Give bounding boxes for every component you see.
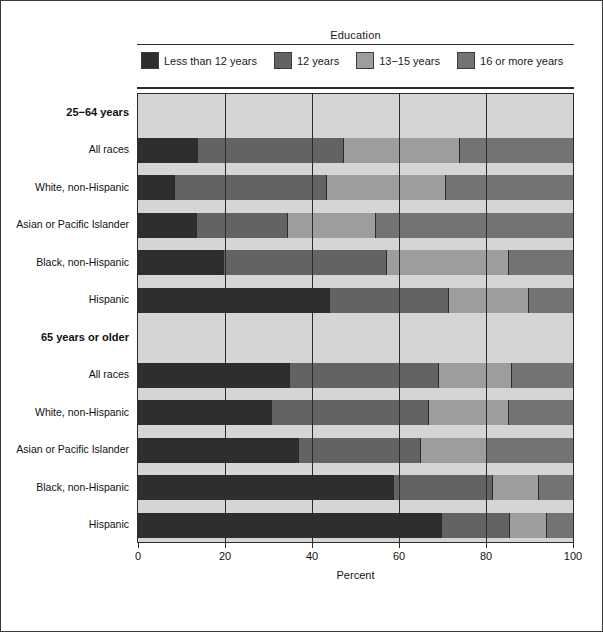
x-axis-tick <box>573 543 574 548</box>
plot-area <box>137 93 574 543</box>
bar-segment[interactable] <box>529 288 573 313</box>
bar-segment[interactable] <box>512 363 573 388</box>
legend-label: 16 or more years <box>480 55 563 67</box>
category-label: Black, non-Hispanic <box>36 481 129 493</box>
bar-segment[interactable] <box>138 288 330 313</box>
bar-segment[interactable] <box>460 138 573 163</box>
legend-items: Less than 12 years12 years13−15 years16 … <box>137 52 574 69</box>
bar-segment[interactable] <box>138 175 175 200</box>
legend-label: Less than 12 years <box>164 55 257 67</box>
bar-segment[interactable] <box>138 475 394 500</box>
stacked-bar[interactable] <box>138 213 573 238</box>
bar-segment[interactable] <box>446 175 573 200</box>
bar-segment[interactable] <box>175 175 327 200</box>
stacked-bar[interactable] <box>138 438 573 463</box>
bar-row[interactable] <box>138 250 573 275</box>
category-label: Hispanic <box>89 518 129 530</box>
x-gridline <box>399 94 400 542</box>
stacked-bar[interactable] <box>138 175 573 200</box>
bar-segment[interactable] <box>198 138 344 163</box>
category-label: Asian or Pacific Islander <box>16 443 129 455</box>
bar-row[interactable] <box>138 363 573 388</box>
group-label: 65 years or older <box>41 331 129 343</box>
legend-item[interactable]: Less than 12 years <box>141 52 257 69</box>
bar-segment[interactable] <box>330 288 449 313</box>
bar-segment[interactable] <box>138 400 272 425</box>
bar-segment[interactable] <box>442 513 510 538</box>
x-axis-tick <box>312 543 313 548</box>
legend-label: 13−15 years <box>379 55 440 67</box>
category-label: Hispanic <box>89 293 129 305</box>
bar-segment[interactable] <box>509 250 573 275</box>
bar-segment[interactable] <box>344 138 461 163</box>
bar-segment[interactable] <box>510 513 547 538</box>
chart-legend: Education Less than 12 years12 years13−1… <box>137 29 574 69</box>
bar-segment[interactable] <box>387 250 508 275</box>
bar-segment[interactable] <box>449 288 530 313</box>
stacked-bar[interactable] <box>138 513 573 538</box>
bar-segment[interactable] <box>539 475 572 500</box>
legend-item[interactable]: 16 or more years <box>457 52 563 69</box>
bar-segment[interactable] <box>429 400 509 425</box>
x-gridline <box>225 94 226 542</box>
bar-row[interactable] <box>138 513 573 538</box>
bar-segment[interactable] <box>487 438 573 463</box>
bar-row[interactable] <box>138 475 573 500</box>
category-label: Black, non-Hispanic <box>36 256 129 268</box>
category-label: White, non-Hispanic <box>35 406 129 418</box>
bar-segment[interactable] <box>547 513 573 538</box>
bar-segment[interactable] <box>439 363 511 388</box>
x-axis-tick <box>486 543 487 548</box>
x-axis-tick-label: 60 <box>393 550 405 562</box>
legend-label: 12 years <box>297 55 339 67</box>
stacked-bar[interactable] <box>138 138 573 163</box>
x-axis-tick-label: 20 <box>219 550 231 562</box>
bar-segment[interactable] <box>288 213 376 238</box>
stacked-bar[interactable] <box>138 363 573 388</box>
legend-swatch-icon <box>457 52 475 69</box>
stacked-bar[interactable] <box>138 250 573 275</box>
bar-segment[interactable] <box>421 438 487 463</box>
x-gridline <box>486 94 487 542</box>
bar-segment[interactable] <box>138 438 299 463</box>
legend-item[interactable]: 13−15 years <box>356 52 440 69</box>
bar-segment[interactable] <box>197 213 288 238</box>
legend-title: Education <box>137 29 574 41</box>
bar-segment[interactable] <box>272 400 429 425</box>
legend-bottom-rule <box>137 87 574 89</box>
bar-segment[interactable] <box>394 475 494 500</box>
bar-segment[interactable] <box>299 438 421 463</box>
category-label: Asian or Pacific Islander <box>16 218 129 230</box>
x-axis-tick <box>138 543 139 548</box>
x-axis-tick-label: 80 <box>480 550 492 562</box>
bar-row[interactable] <box>138 138 573 163</box>
legend-item[interactable]: 12 years <box>274 52 339 69</box>
x-axis-title: Percent <box>137 569 574 581</box>
bar-segment[interactable] <box>224 250 387 275</box>
bar-row[interactable] <box>138 400 573 425</box>
bar-segment[interactable] <box>138 513 442 538</box>
category-label: White, non-Hispanic <box>35 181 129 193</box>
bar-row[interactable] <box>138 288 573 313</box>
bar-segment[interactable] <box>138 250 224 275</box>
bar-segment[interactable] <box>493 475 539 500</box>
x-axis-tick-label: 40 <box>306 550 318 562</box>
bar-row[interactable] <box>138 175 573 200</box>
stacked-bar[interactable] <box>138 400 573 425</box>
stacked-bar[interactable] <box>138 288 573 313</box>
bar-row[interactable] <box>138 213 573 238</box>
bar-segment[interactable] <box>509 400 573 425</box>
x-gridline <box>312 94 313 542</box>
bar-segment[interactable] <box>138 138 198 163</box>
legend-swatch-icon <box>141 52 159 69</box>
legend-swatch-icon <box>274 52 292 69</box>
group-label: 25−64 years <box>66 106 129 118</box>
bar-segment[interactable] <box>327 175 446 200</box>
bar-segment[interactable] <box>376 213 573 238</box>
x-axis-tick <box>225 543 226 548</box>
stacked-bar[interactable] <box>138 475 573 500</box>
category-label: All races <box>89 368 129 380</box>
bar-segment[interactable] <box>138 213 197 238</box>
bar-segment[interactable] <box>138 363 290 388</box>
bar-row[interactable] <box>138 438 573 463</box>
